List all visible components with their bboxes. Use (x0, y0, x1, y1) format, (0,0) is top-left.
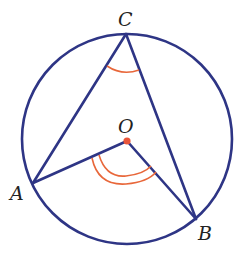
label-o: O (118, 115, 134, 137)
segment-ob (127, 141, 196, 219)
label-b: B (197, 222, 212, 244)
segment-cb (126, 34, 196, 219)
label-c: C (118, 8, 133, 30)
circle-diagram: C O A B (0, 0, 244, 256)
label-a: A (8, 182, 24, 204)
center-point-o (123, 137, 130, 144)
angle-arc-c (107, 66, 139, 72)
segment-ca (33, 34, 126, 183)
